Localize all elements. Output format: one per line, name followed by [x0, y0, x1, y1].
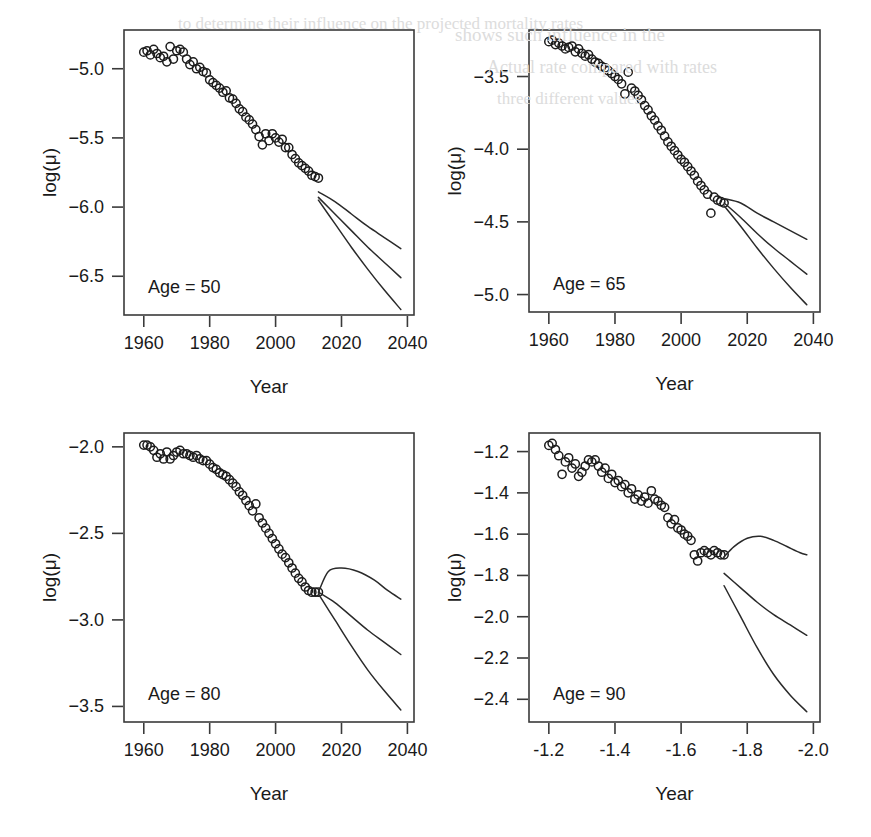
- x-tick-label: 2000: [256, 333, 296, 353]
- forecast-line: [724, 536, 807, 557]
- panel-annotation-label: Age = 65: [553, 274, 626, 294]
- forecast-line: [724, 203, 807, 274]
- x-tick-label: -2.0: [798, 740, 829, 760]
- forecast-line: [318, 200, 400, 309]
- data-point-marker: [624, 68, 632, 76]
- panel-age-80: 19601980200020202040−2.0−2.5−3.0−3.5log(…: [39, 433, 427, 804]
- y-tick-label: −5.0: [473, 285, 509, 305]
- x-tick-label: 2020: [727, 330, 767, 350]
- x-tick-label: 2000: [256, 740, 296, 760]
- y-tick-label: −1.6: [473, 524, 509, 544]
- observed-series: [545, 36, 728, 217]
- y-tick-label: −2.0: [68, 437, 104, 457]
- forecast-line: [318, 568, 400, 599]
- x-tick-label: 1960: [124, 740, 164, 760]
- four-panel-plot-canvas: 19601980200020202040−5.0−5.5−6.0−6.5log(…: [0, 0, 871, 837]
- x-tick-label: -1.8: [732, 740, 763, 760]
- x-tick-label: 2020: [321, 740, 361, 760]
- x-tick-label: -1.4: [599, 740, 630, 760]
- y-tick-label: −1.4: [473, 483, 509, 503]
- forecast-line: [318, 594, 400, 710]
- y-axis-label: log(μ): [39, 553, 60, 602]
- panel-annotation-label: Age = 90: [553, 684, 626, 704]
- observed-series: [140, 43, 323, 183]
- y-tick-label: −4.5: [473, 212, 509, 232]
- plot-box: [529, 30, 820, 312]
- y-axis-label: log(μ): [444, 147, 465, 196]
- x-tick-label: 1980: [190, 740, 230, 760]
- y-tick-label: −2.4: [473, 689, 509, 709]
- x-tick-label: 2040: [387, 740, 427, 760]
- y-tick-label: −5.0: [68, 59, 104, 79]
- x-tick-label: 2040: [387, 333, 427, 353]
- x-tick-label: 2020: [321, 333, 361, 353]
- mortality-forecast-figure: to determine their influence on the proj…: [0, 0, 871, 837]
- data-point-marker: [707, 209, 715, 217]
- x-axis-label: Year: [250, 376, 289, 397]
- x-tick-label: 2040: [793, 330, 833, 350]
- y-tick-label: −6.0: [68, 197, 104, 217]
- y-tick-label: −1.2: [473, 442, 509, 462]
- forecast-line: [724, 573, 807, 635]
- y-tick-label: −2.2: [473, 648, 509, 668]
- x-tick-label: 1960: [529, 330, 569, 350]
- panel-annotation-label: Age = 80: [148, 684, 221, 704]
- y-tick-label: −3.5: [473, 67, 509, 87]
- y-tick-label: −3.5: [68, 696, 104, 716]
- forecast-line: [318, 592, 400, 654]
- panel-age-90: -1.2-1.4-1.6-1.8-2.0−1.2−1.4−1.6−1.8−2.0…: [444, 433, 829, 804]
- data-point-marker: [647, 487, 655, 495]
- x-tick-label: 1980: [595, 330, 635, 350]
- x-axis-label: Year: [655, 373, 694, 394]
- forecast-line: [724, 199, 807, 240]
- x-tick-label: 1980: [190, 333, 230, 353]
- y-tick-label: −5.5: [68, 128, 104, 148]
- x-axis-label: Year: [655, 783, 694, 804]
- observed-series: [545, 439, 728, 565]
- y-tick-label: −2.5: [68, 523, 104, 543]
- x-tick-label: -1.2: [533, 740, 564, 760]
- forecast-line: [318, 192, 400, 249]
- x-tick-label: -1.6: [666, 740, 697, 760]
- x-tick-label: 1960: [124, 333, 164, 353]
- y-axis-label: log(μ): [39, 148, 60, 197]
- panel-annotation-label: Age = 50: [148, 277, 221, 297]
- forecast-line: [724, 586, 807, 712]
- x-axis-label: Year: [250, 783, 289, 804]
- forecast-line: [724, 206, 807, 305]
- x-tick-label: 2000: [661, 330, 701, 350]
- y-tick-label: −3.0: [68, 610, 104, 630]
- y-tick-label: −4.0: [473, 139, 509, 159]
- y-tick-label: −6.5: [68, 266, 104, 286]
- panel-age-50: 19601980200020202040−5.0−5.5−6.0−6.5log(…: [39, 30, 427, 397]
- y-tick-label: −2.0: [473, 607, 509, 627]
- y-axis-label: log(μ): [444, 553, 465, 602]
- panel-age-65: 19601980200020202040−3.5−4.0−4.5−5.0log(…: [444, 30, 833, 394]
- forecast-line: [318, 197, 400, 277]
- observed-series: [140, 441, 323, 596]
- y-tick-label: −1.8: [473, 565, 509, 585]
- data-point-marker: [558, 470, 566, 478]
